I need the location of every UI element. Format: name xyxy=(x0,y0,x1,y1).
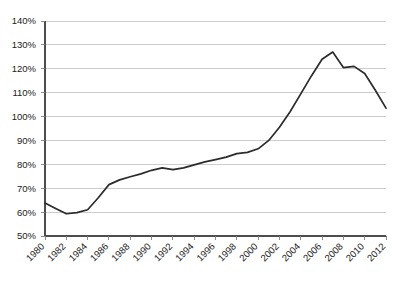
x-axis-tick-label: 2008 xyxy=(322,241,345,264)
y-axis-tick-label: 60% xyxy=(17,207,37,218)
x-axis-tick-label: 1986 xyxy=(88,241,111,264)
x-axis-tick-label: 2004 xyxy=(279,241,302,264)
data-series-line xyxy=(45,52,386,214)
x-axis-tick-label: 2010 xyxy=(343,241,366,264)
x-axis-tick-label: 1988 xyxy=(109,241,132,264)
x-axis-tick-label: 1980 xyxy=(24,241,47,264)
y-axis-tick-label: 100% xyxy=(12,111,37,122)
x-axis-tick-label: 1998 xyxy=(215,241,238,264)
y-axis-tick-label: 130% xyxy=(12,39,37,50)
y-axis-tick-label: 50% xyxy=(17,230,37,241)
gridlines-group xyxy=(45,21,386,212)
y-axis-tick-labels: 50%60%70%80%90%100%110%120%130%140% xyxy=(12,15,37,241)
x-axis-tick-labels: 1980198219841986198819901992199419961998… xyxy=(24,241,388,264)
y-axis-tick-label: 120% xyxy=(12,63,37,74)
y-axis-tick-label: 110% xyxy=(12,87,36,98)
x-axis-tickmarks xyxy=(45,236,386,240)
y-axis-tick-label: 70% xyxy=(17,183,37,194)
data-series-group xyxy=(45,52,386,214)
y-axis-tickmarks xyxy=(41,21,45,236)
x-axis-tick-label: 1996 xyxy=(194,241,217,264)
x-axis-tick-label: 2006 xyxy=(301,241,324,264)
y-axis-tick-label: 140% xyxy=(12,15,37,26)
y-axis-tick-label: 90% xyxy=(17,135,37,146)
line-chart: 50%60%70%80%90%100%110%120%130%140% 1980… xyxy=(0,0,404,281)
x-axis-tick-label: 2012 xyxy=(365,241,388,264)
x-axis-tick-label: 1990 xyxy=(130,241,153,264)
x-axis-tick-label: 2002 xyxy=(258,241,281,264)
x-axis-tick-label: 1982 xyxy=(45,241,68,264)
x-axis-tick-label: 2000 xyxy=(237,241,260,264)
x-axis-tick-label: 1984 xyxy=(66,241,89,264)
x-axis-tick-label: 1994 xyxy=(173,241,196,264)
chart-canvas: 50%60%70%80%90%100%110%120%130%140% 1980… xyxy=(0,0,404,281)
x-axis-tick-label: 1992 xyxy=(152,241,175,264)
y-axis-tick-label: 80% xyxy=(17,159,37,170)
